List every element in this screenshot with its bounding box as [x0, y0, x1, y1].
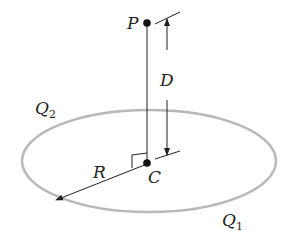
label-q2: Q2 [35, 98, 56, 121]
label-p: P [126, 13, 139, 33]
label-r: R [92, 162, 106, 182]
label-q1: Q1 [222, 210, 243, 233]
point-c [143, 159, 151, 167]
label-d: D [159, 70, 174, 90]
point-p [143, 19, 151, 27]
label-c: C [148, 167, 161, 187]
ring-diagram: P C D R Q2 Q1 [0, 0, 288, 238]
